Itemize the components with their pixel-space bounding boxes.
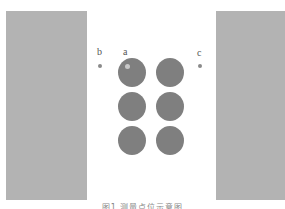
point-b [98,64,102,68]
circle-r2-c2 [156,92,184,121]
left-gray-panel [6,11,87,200]
figure-caption: 图1 测量点位示意图 [0,201,285,209]
label-b: b [97,47,102,57]
circle-r2-c1 [118,92,146,121]
circle-r3-c2 [156,126,184,155]
point-a-marker [125,64,130,69]
circle-r1-c2 [156,58,184,87]
right-gray-panel [216,11,285,200]
label-c: c [197,48,201,58]
point-c [198,64,202,68]
circle-r1-c1 [118,58,146,87]
label-a: a [123,47,127,57]
circle-r3-c1 [118,126,146,155]
